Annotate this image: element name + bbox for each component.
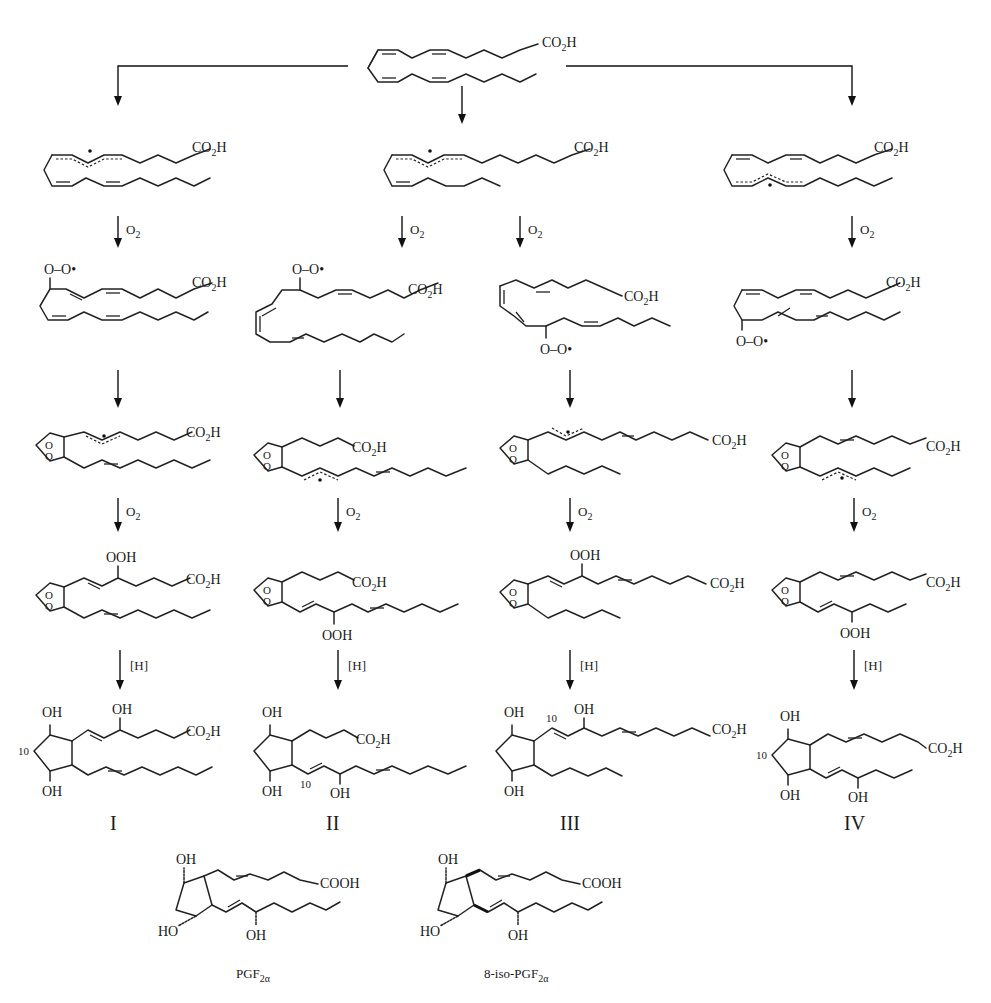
svg-text:OH: OH — [780, 788, 800, 803]
svg-text:O2: O2 — [126, 222, 140, 240]
svg-text:O2: O2 — [528, 222, 542, 240]
svg-text:OH: OH — [504, 705, 524, 720]
svg-text:PGF2α: PGF2α — [236, 966, 271, 984]
hydroperoxide-IV: OOH — [772, 572, 961, 641]
svg-text:OH: OH — [508, 928, 528, 943]
peroxyl-II: O–O• — [256, 262, 443, 342]
svg-text:I: I — [110, 812, 117, 834]
svg-text:OH: OH — [330, 786, 350, 801]
svg-text:O–O•: O–O• — [44, 262, 76, 277]
hydroperoxide-III: OOH — [500, 548, 745, 618]
svg-text:10: 10 — [300, 778, 312, 790]
endoperoxide-radical-IV — [772, 436, 961, 480]
svg-text:[H]: [H] — [348, 658, 366, 673]
svg-text:O–O•: O–O• — [736, 334, 768, 349]
svg-text:10: 10 — [546, 712, 558, 724]
svg-text:IV: IV — [844, 812, 866, 834]
peroxyl-III: O–O• — [500, 280, 670, 357]
branch-arrows — [114, 66, 856, 124]
radical-left — [44, 140, 227, 186]
svg-text:O2: O2 — [578, 504, 592, 522]
o2-arrows-row1: O2 O2 O2 O2 — [114, 216, 874, 248]
endoperoxide-radical-II — [254, 438, 466, 482]
cyclization-arrows — [114, 370, 856, 408]
svg-text:OH: OH — [42, 784, 62, 799]
svg-text:OH: OH — [262, 784, 282, 799]
svg-text:OH: OH — [42, 705, 62, 720]
svg-text:OOH: OOH — [840, 626, 870, 641]
svg-text:[H]: [H] — [130, 658, 148, 673]
svg-text:OH: OH — [848, 790, 868, 805]
svg-text:OOH: OOH — [570, 548, 600, 563]
svg-text:OH: OH — [504, 784, 524, 799]
svg-text:O2: O2 — [346, 504, 360, 522]
svg-text:COOH: COOH — [582, 876, 622, 891]
radical-right — [724, 140, 909, 187]
o2-arrows-row3: O2 O2 O2 O2 — [114, 498, 876, 532]
svg-text:O2: O2 — [410, 222, 424, 240]
svg-text:[H]: [H] — [580, 658, 598, 673]
radical-middle — [384, 140, 609, 186]
hydroperoxide-I: OOH — [36, 550, 221, 618]
svg-text:OH: OH — [574, 702, 594, 717]
peroxyl-I: O–O• — [40, 262, 227, 320]
peroxyl-IV: O–O• — [734, 275, 921, 349]
arachidonic-acid — [368, 35, 577, 82]
svg-text:O2: O2 — [860, 222, 874, 240]
svg-text:[H]: [H] — [864, 658, 882, 673]
svg-text:OH: OH — [262, 705, 282, 720]
endoperoxide-radical-I — [36, 425, 221, 468]
isoprostane-II: OH OH 10 OH II — [254, 705, 466, 834]
svg-text:OH: OH — [176, 852, 196, 867]
pgf2a-structure: OH HO COOH OH PGF2α — [158, 852, 360, 984]
svg-text:HO: HO — [420, 924, 440, 939]
svg-text:HO: HO — [158, 924, 178, 939]
isoprostane-I: OH OH 10 OH I — [18, 702, 221, 834]
svg-text:O2: O2 — [862, 504, 876, 522]
svg-text:O–O•: O–O• — [540, 342, 572, 357]
svg-text:10: 10 — [756, 749, 768, 761]
endoperoxide-radical-III — [500, 428, 747, 474]
svg-text:II: II — [326, 812, 339, 834]
svg-text:10: 10 — [18, 745, 30, 757]
isoprostane-III: OH OH 10 OH III — [496, 702, 747, 834]
hydroperoxide-II: OOH — [254, 572, 458, 643]
svg-text:OH: OH — [246, 928, 266, 943]
svg-text:OH: OH — [438, 852, 458, 867]
reduction-arrows: [H] [H] [H] [H] — [116, 650, 882, 690]
svg-text:III: III — [560, 812, 580, 834]
svg-text:O2: O2 — [126, 504, 140, 522]
svg-text:O–O•: O–O• — [292, 262, 324, 277]
8-iso-pgf2a-structure: OH HO COOH OH 8-iso-PGF2α — [420, 852, 622, 984]
isoprostane-formation-scheme: CO2H O O — [0, 0, 991, 1003]
isoprostane-IV: OH OH 10 OH IV — [756, 709, 963, 834]
svg-text:OOH: OOH — [322, 628, 352, 643]
svg-text:COOH: COOH — [320, 876, 360, 891]
svg-text:OOH: OOH — [106, 550, 136, 565]
svg-text:OH: OH — [112, 702, 132, 717]
svg-text:OH: OH — [780, 709, 800, 724]
svg-text:8-iso-PGF2α: 8-iso-PGF2α — [484, 966, 549, 984]
